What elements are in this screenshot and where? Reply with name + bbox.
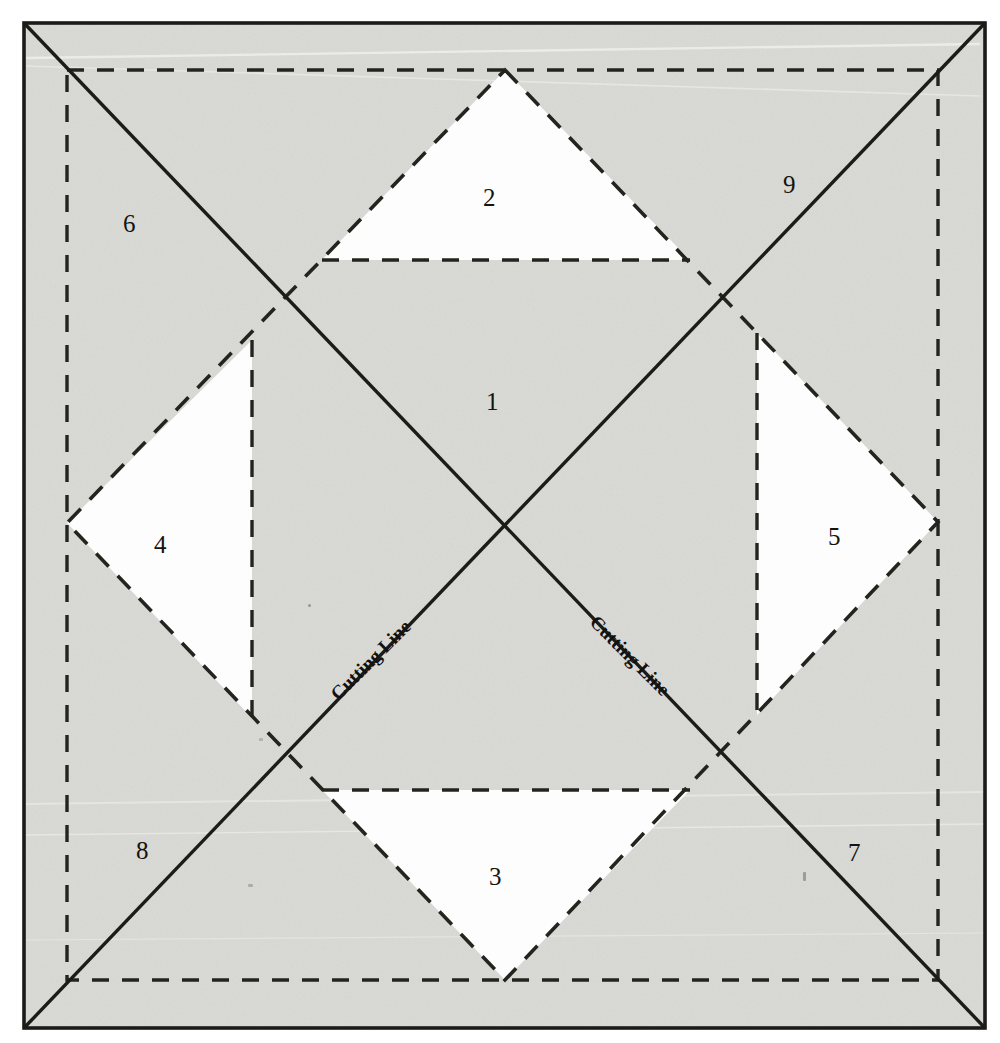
scan-speck <box>803 872 806 881</box>
scan-speck <box>259 738 263 741</box>
figure-canvas: 1 2 3 4 5 6 7 8 9 Cutting Line Cutting L… <box>0 0 1000 1043</box>
region-label-5: 5 <box>828 524 841 549</box>
region-label-1: 1 <box>486 389 499 414</box>
region-label-6: 6 <box>123 211 136 236</box>
region-label-2: 2 <box>483 185 496 210</box>
region-label-4: 4 <box>154 532 167 557</box>
region-label-7: 7 <box>848 840 861 865</box>
region-label-8: 8 <box>136 838 149 863</box>
scan-speck <box>308 604 311 607</box>
region-label-3: 3 <box>489 864 502 889</box>
region-label-9: 9 <box>783 172 796 197</box>
scan-speck <box>248 884 253 887</box>
